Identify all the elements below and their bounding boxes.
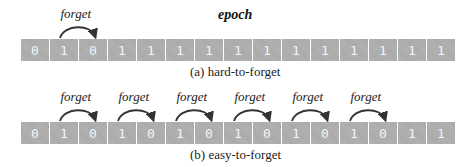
forget-label: forget [351, 89, 382, 105]
forget-arrow [118, 110, 153, 121]
forget-arrow [176, 110, 211, 121]
forget-arrow [350, 110, 385, 121]
forget-arrow [234, 110, 269, 121]
forget-label: forget [177, 89, 208, 105]
forget-label: forget [235, 89, 266, 105]
caption-easy-to-forget: (b) easy-to-forget [190, 147, 281, 163]
forget-label: forget [61, 89, 92, 105]
forget-arrow [60, 110, 95, 121]
forget-arrow [60, 27, 95, 38]
forget-label: forget [119, 89, 150, 105]
forget-label: forget [293, 89, 324, 105]
caption-hard-to-forget: (a) hard-to-forget [190, 64, 280, 80]
forget-arrow [292, 110, 327, 121]
forget-label: forget [61, 6, 92, 22]
forget-arrows [0, 0, 472, 167]
